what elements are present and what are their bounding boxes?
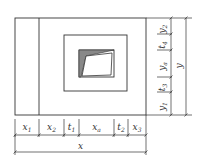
- dim-label-y1: y1: [157, 102, 168, 112]
- opening: [82, 53, 112, 76]
- dim-label-t4: t4: [157, 41, 168, 49]
- dim-label-xa: xa: [92, 122, 101, 133]
- dim-label-y2: y2: [157, 24, 168, 34]
- dim-label-x3: x3: [133, 122, 142, 133]
- dim-label-t3: t3: [157, 84, 168, 92]
- dim-label-x1: x1: [23, 122, 32, 133]
- dim-label-t1: t1: [68, 122, 75, 133]
- dim-label-y-total: y: [174, 63, 184, 70]
- dim-label-t2: t2: [117, 122, 125, 133]
- dimension-diagram: x1x2t1xat2x3xy2t4yat3y1y: [0, 0, 203, 164]
- dim-label-x-total: x: [78, 141, 83, 151]
- dim-label-x2: x2: [47, 122, 56, 133]
- dim-label-ya: ya: [157, 62, 168, 72]
